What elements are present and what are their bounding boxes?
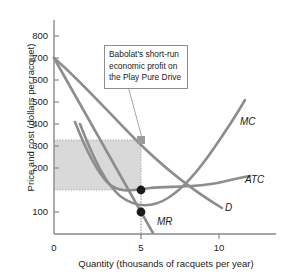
x-axis-title: Quantity (thousands of racquets per year… [52, 258, 280, 269]
y-axis-title: Price and cost (dollars per racquet) [25, 28, 36, 208]
mr-mc-point-marker [137, 208, 146, 217]
x-tick-label-5: 5 [131, 243, 151, 253]
x-tick-label-0: 0 [44, 243, 64, 253]
price-point-marker [137, 136, 145, 144]
profit-callout-box: Babolat's short-run economic profit on t… [104, 45, 188, 89]
y-tick-label-100: 100 [22, 207, 48, 217]
atc-point-marker [137, 186, 146, 195]
x-tick-label-10: 10 [209, 243, 229, 253]
callout-line-2: economic profit on [109, 61, 183, 73]
economics-chart-figure: 800 700 600 500 400 300 200 100 0 5 10 Q… [0, 0, 281, 276]
chart-plot-area [0, 0, 281, 276]
callout-line-3: the Play Pure Drive [109, 72, 183, 84]
mr-curve-label: MR [157, 217, 173, 227]
d-curve-label: D [225, 203, 232, 213]
callout-leader-line [128, 86, 142, 138]
callout-line-1: Babolat's short-run [109, 49, 183, 61]
atc-curve-label: ATC [245, 175, 264, 185]
mc-curve-label: MC [240, 117, 256, 127]
